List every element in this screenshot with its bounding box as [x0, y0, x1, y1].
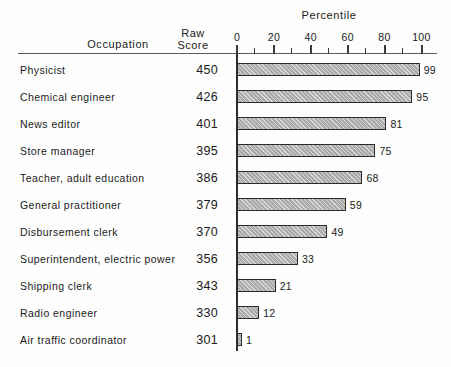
percentile-bar: [237, 252, 298, 265]
x-axis-tick-0: [236, 45, 238, 54]
percentile-value-label: 12: [263, 307, 275, 319]
percentile-value-label: 95: [416, 91, 428, 103]
occupation-label: Shipping clerk: [20, 280, 92, 292]
percentile-bar: [237, 306, 259, 319]
percentile-value-label: 75: [379, 145, 391, 157]
percentile-value-label: 99: [424, 64, 436, 76]
raw-score-value: 330: [160, 306, 218, 320]
percentile-bar: [237, 333, 242, 346]
chart-row: Radio engineer33012: [0, 306, 451, 321]
percentile-value-label: 81: [390, 118, 402, 130]
x-axis-tick-label-20: 20: [259, 31, 289, 43]
percentile-bar: [237, 90, 412, 103]
chart-row: Disbursement clerk37049: [0, 225, 451, 240]
chart-row: General practitioner37959: [0, 198, 451, 213]
x-axis-tick-label-100: 100: [407, 31, 437, 43]
occupation-label: Radio engineer: [20, 307, 98, 319]
chart-row: Physicist45099: [0, 63, 451, 78]
raw-score-value: 450: [160, 63, 218, 77]
x-axis-tick-label-0: 0: [222, 31, 252, 43]
occupation-label: Physicist: [20, 64, 65, 76]
header-divider-rule: [18, 53, 437, 54]
percentile-bar: [237, 225, 327, 238]
chart-row: Chemical engineer42695: [0, 90, 451, 105]
occupation-label: Disbursement clerk: [20, 226, 118, 238]
occupation-label: Teacher, adult education: [20, 172, 145, 184]
chart-row: Air traffic coordinator3011: [0, 333, 451, 348]
raw-score-value: 343: [160, 279, 218, 293]
occupation-label: Chemical engineer: [20, 91, 115, 103]
occupation-label: Store manager: [20, 145, 95, 157]
column-header-raw-score: Raw Score: [168, 27, 218, 51]
raw-score-value: 386: [160, 171, 218, 185]
chart-row: News editor40181: [0, 117, 451, 132]
x-axis-tick-90: [402, 48, 403, 54]
occupation-label: News editor: [20, 118, 80, 130]
percentile-value-label: 33: [302, 253, 314, 265]
occupation-label: Air traffic coordinator: [20, 334, 127, 346]
x-axis-tick-30: [291, 48, 292, 54]
x-axis-tick-70: [365, 48, 366, 54]
occupation-label: Superintendent, electric power: [20, 253, 175, 265]
percentile-bar: [237, 144, 375, 157]
percentile-value-label: 21: [280, 280, 292, 292]
chart-row: Superintendent, electric power35633: [0, 252, 451, 267]
chart-row: Shipping clerk34321: [0, 279, 451, 294]
column-header-raw-score-line2: Score: [168, 39, 218, 51]
x-axis-tick-40: [310, 45, 312, 54]
x-axis-tick-label-60: 60: [333, 31, 363, 43]
x-axis-tick-label-80: 80: [370, 31, 400, 43]
column-header-raw-score-line1: Raw: [168, 27, 218, 39]
percentile-bar: [237, 198, 346, 211]
x-axis-tick-100: [421, 45, 423, 54]
percentile-value-label: 68: [366, 172, 378, 184]
raw-score-value: 370: [160, 225, 218, 239]
percentile-bar: [237, 63, 420, 76]
raw-score-value: 401: [160, 117, 218, 131]
percentile-bar-chart: Percentile Occupation Raw Score 02040608…: [0, 0, 451, 367]
raw-score-value: 395: [160, 144, 218, 158]
chart-row: Teacher, adult education38668: [0, 171, 451, 186]
percentile-bar: [237, 171, 362, 184]
raw-score-value: 426: [160, 90, 218, 104]
x-axis-tick-50: [328, 48, 329, 54]
percentile-value-label: 59: [350, 199, 362, 211]
occupation-label: General practitioner: [20, 199, 121, 211]
raw-score-value: 301: [160, 333, 218, 347]
x-axis-tick-10: [254, 48, 255, 54]
percentile-value-label: 49: [331, 226, 343, 238]
x-axis-title: Percentile: [236, 9, 422, 21]
x-axis-tick-20: [273, 45, 275, 54]
chart-row: Store manager39575: [0, 144, 451, 159]
x-axis-tick-80: [384, 45, 386, 54]
percentile-bar: [237, 279, 276, 292]
raw-score-value: 356: [160, 252, 218, 266]
percentile-value-label: 1: [246, 334, 252, 346]
percentile-bar: [237, 117, 386, 130]
x-axis-tick-60: [347, 45, 349, 54]
x-axis-tick-label-40: 40: [296, 31, 326, 43]
raw-score-value: 379: [160, 198, 218, 212]
